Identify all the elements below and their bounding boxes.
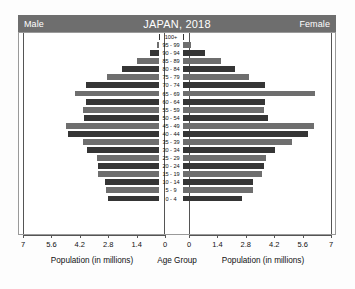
left-axis-rule (23, 235, 165, 236)
age-group-label: 0 - 4 (159, 195, 183, 203)
female-bar-cell (183, 57, 323, 65)
age-group-label: 20 - 24 (159, 162, 183, 170)
female-bar-cell (183, 130, 323, 138)
population-pyramid-chart: Male JAPAN, 2018 Female 100+95 - 9990 - … (0, 0, 355, 289)
male-bar-cell (19, 195, 159, 203)
male-bar (107, 74, 159, 80)
female-bar-cell (183, 170, 323, 178)
age-group-label: 30 - 34 (159, 146, 183, 154)
male-bar-cell (19, 146, 159, 154)
axis-tick (108, 235, 109, 238)
age-group-label: 10 - 14 (159, 178, 183, 186)
male-bar (108, 196, 159, 202)
female-bar-cell (183, 186, 323, 194)
male-bar-cell (19, 130, 159, 138)
female-bar (183, 131, 308, 137)
pyramid-row: 20 - 24 (19, 162, 335, 170)
female-bar (183, 179, 253, 185)
female-bar (183, 34, 184, 40)
axis-tick (137, 235, 138, 238)
axis-tick (331, 235, 332, 238)
axis-tick (217, 235, 218, 238)
female-bar (183, 196, 242, 202)
female-bar (183, 147, 275, 153)
pyramid-row: 55 - 59 (19, 106, 335, 114)
left-axis-caption: Population (in millions) (51, 256, 133, 265)
female-bar-cell (183, 114, 323, 122)
pyramid-row: 90 - 94 (19, 49, 335, 57)
axis-captions: Population (in millions) Age Group Popul… (0, 256, 355, 270)
male-bar-cell (19, 122, 159, 130)
male-bar (84, 115, 159, 121)
pyramid-row: 5 - 9 (19, 186, 335, 194)
pyramid-row: 75 - 79 (19, 73, 335, 81)
male-bar (86, 82, 159, 88)
pyramid-row: 10 - 14 (19, 178, 335, 186)
axis-tick (23, 235, 24, 238)
female-bar (183, 58, 221, 64)
right-tick-label: 5.6 (297, 240, 307, 249)
female-bar (183, 82, 265, 88)
female-bar (183, 99, 265, 105)
axis-tick-labels: 75.64.22.81.4001.42.84.25.67 (0, 240, 355, 252)
left-tick-label: 1.4 (131, 240, 141, 249)
male-bar-cell (19, 138, 159, 146)
right-tick-label: 7 (329, 240, 333, 249)
chart-title: JAPAN, 2018 (18, 18, 336, 30)
male-bar (137, 58, 159, 64)
female-bar (183, 123, 314, 129)
male-bar-cell (19, 178, 159, 186)
female-bar-cell (183, 41, 323, 49)
male-bar-cell (19, 114, 159, 122)
pyramid-row: 50 - 54 (19, 114, 335, 122)
male-bar-cell (19, 49, 159, 57)
chart-header-band: Male JAPAN, 2018 Female (18, 15, 336, 32)
pyramid-row: 45 - 49 (19, 122, 335, 130)
female-bar-cell (183, 73, 323, 81)
axis-tick (189, 235, 190, 238)
right-tick-label: 1.4 (212, 240, 222, 249)
female-bar-cell (183, 90, 323, 98)
axis-tick (165, 235, 166, 238)
pyramid-row: 35 - 39 (19, 138, 335, 146)
female-bar (183, 74, 249, 80)
female-bar-cell (183, 178, 323, 186)
female-bar (183, 66, 235, 72)
female-bar-cell (183, 81, 323, 89)
male-bar-cell (19, 162, 159, 170)
male-bar (87, 147, 159, 153)
age-group-label: 95 - 99 (159, 41, 183, 49)
male-bar (98, 171, 159, 177)
axis-tick (246, 235, 247, 238)
axis-tick (303, 235, 304, 238)
pyramid-row: 0 - 4 (19, 195, 335, 203)
left-tick-label: 2.8 (103, 240, 113, 249)
male-bar-cell (19, 98, 159, 106)
center-axis-caption: Age Group (157, 256, 197, 265)
age-group-label: 45 - 49 (159, 122, 183, 130)
female-bar-cell (183, 146, 323, 154)
female-bar (183, 115, 268, 121)
age-group-label: 70 - 74 (159, 81, 183, 89)
pyramid-row: 40 - 44 (19, 130, 335, 138)
pyramid-row: 70 - 74 (19, 81, 335, 89)
female-bar-cell (183, 195, 323, 203)
age-group-label: 35 - 39 (159, 138, 183, 146)
female-bar-cell (183, 162, 323, 170)
male-bar-cell (19, 65, 159, 73)
male-bar (97, 155, 159, 161)
axis-tick (80, 235, 81, 238)
female-bar-cell (183, 49, 323, 57)
male-bar-cell (19, 41, 159, 49)
female-bar-cell (183, 33, 323, 41)
right-axis-caption: Population (in millions) (222, 256, 304, 265)
pyramid-row: 85 - 89 (19, 57, 335, 65)
age-group-label: 25 - 29 (159, 154, 183, 162)
female-bar (183, 163, 264, 169)
male-bar (122, 66, 159, 72)
age-group-label: 55 - 59 (159, 106, 183, 114)
age-group-label: 90 - 94 (159, 49, 183, 57)
age-group-label: 15 - 19 (159, 170, 183, 178)
male-bar-cell (19, 73, 159, 81)
bar-rows: 100+95 - 9990 - 9485 - 8980 - 8475 - 797… (19, 33, 335, 234)
